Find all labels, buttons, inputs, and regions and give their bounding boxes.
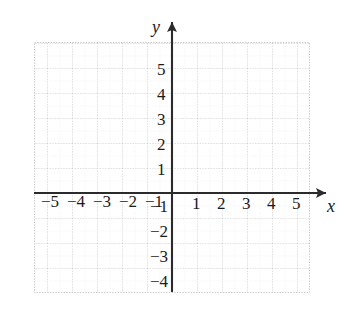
- y-tick-label-5: 5: [157, 61, 166, 78]
- y-tick-label-1: 1: [157, 161, 166, 178]
- x-tick-label-minus-3: −3: [89, 193, 115, 210]
- y-tick-label-4: 4: [157, 86, 166, 103]
- x-tick-label-4: 4: [267, 195, 276, 212]
- grid-canvas: [0, 0, 344, 318]
- coordinate-plane-figure: 5 4 3 2 1 −1 −2 −3 −4 −5 −4 −3 −2 −1 1 2…: [0, 0, 344, 318]
- x-tick-label-minus-5: −5: [37, 193, 63, 210]
- y-tick-label-minus-2: −2: [150, 223, 168, 240]
- x-tick-label-minus-1: −1: [141, 193, 167, 210]
- y-tick-label-minus-3: −3: [150, 248, 168, 265]
- x-tick-label-2: 2: [217, 195, 226, 212]
- x-tick-label-minus-2: −2: [115, 193, 141, 210]
- x-tick-label-1: 1: [192, 195, 201, 212]
- y-tick-label-minus-4: −4: [150, 273, 168, 290]
- x-negative-tick-labels: −5 −4 −3 −2 −1: [37, 193, 167, 210]
- x-axis-label: x: [327, 197, 335, 215]
- y-axis-label: y: [152, 18, 160, 36]
- x-tick-label-5: 5: [292, 195, 301, 212]
- x-tick-label-minus-4: −4: [63, 193, 89, 210]
- y-tick-label-3: 3: [157, 111, 166, 128]
- x-tick-label-3: 3: [242, 195, 251, 212]
- y-tick-label-2: 2: [157, 136, 166, 153]
